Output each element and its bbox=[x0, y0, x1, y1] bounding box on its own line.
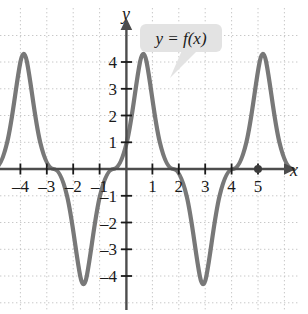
function-graph-figure: –4 –3 –2 –1 1 2 3 4 5 4 3 2 1 –1 –2 –3 –… bbox=[0, 0, 308, 314]
x-tick-label: 4 bbox=[227, 177, 236, 196]
y-axis-label: y bbox=[120, 4, 130, 24]
y-tick-label: 2 bbox=[109, 107, 118, 126]
y-tick-label: –2 bbox=[99, 214, 117, 233]
y-tick-label: –1 bbox=[99, 187, 117, 206]
y-tick-label: –3 bbox=[99, 240, 117, 259]
callout-leader bbox=[170, 48, 196, 78]
x-tick-label: –4 bbox=[11, 177, 30, 196]
y-tick-label: 1 bbox=[109, 133, 118, 152]
x-tick-label: 3 bbox=[201, 177, 210, 196]
x-tick-label: 5 bbox=[254, 177, 263, 196]
x-tick-label: –2 bbox=[64, 177, 82, 196]
y-tick-label: 4 bbox=[109, 53, 118, 72]
callout-label: y = f(x) bbox=[153, 29, 206, 48]
x-axis-label: x bbox=[289, 160, 298, 180]
x-tick-label: –3 bbox=[37, 177, 55, 196]
y-tick-label: 3 bbox=[109, 80, 118, 99]
y-tick-label: –4 bbox=[99, 267, 118, 286]
x-tick-label: 2 bbox=[175, 177, 184, 196]
x-tick-label: 1 bbox=[148, 177, 157, 196]
curve-callout: y = f(x) bbox=[140, 24, 222, 52]
